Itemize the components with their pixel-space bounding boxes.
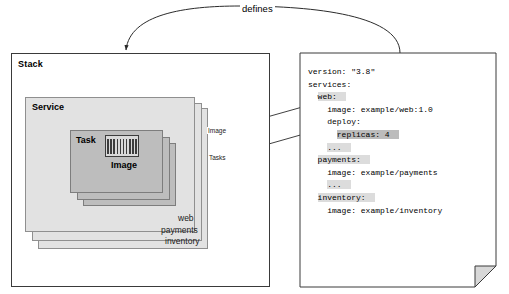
compose-line-text: image: example/inventory (327, 206, 442, 215)
compose-line: deploy: (308, 116, 442, 129)
compose-line: services: (308, 79, 442, 92)
compose-line: ... (308, 142, 442, 155)
compose-line-text: replicas: 4 (337, 130, 399, 139)
compose-line-text: payments: (318, 155, 371, 164)
compose-line: ... (308, 179, 442, 192)
connector-label-tasks: Tasks (208, 154, 227, 161)
compose-line-text: version: "3.8" (308, 67, 375, 76)
stack-label: Stack (18, 59, 43, 69)
service-name-payments: payments (161, 225, 198, 235)
compose-line-text: services: (308, 80, 351, 89)
compose-line: payments: (308, 154, 442, 167)
defines-label: defines (240, 3, 275, 14)
task-label: Task (76, 135, 96, 145)
image-label: Image (103, 160, 145, 170)
compose-line: version: "3.8" (308, 66, 442, 79)
compose-line-text: deploy: (327, 117, 361, 126)
diagram-canvas: Stack inventory payments web Service Tas… (0, 0, 509, 294)
compose-line-text: image: example/payments (327, 168, 437, 177)
service-name-inventory: inventory (165, 236, 200, 246)
compose-line-text: web: (318, 92, 347, 101)
compose-line: image: example/web:1.0 (308, 104, 442, 117)
image-icon (105, 135, 139, 157)
compose-line: replicas: 4 (308, 129, 442, 142)
compose-line: image: example/inventory (308, 205, 442, 218)
barcode-bars (107, 139, 136, 154)
compose-line-text: ... (327, 180, 351, 189)
compose-line: inventory: (308, 192, 442, 205)
compose-line-text: inventory: (318, 193, 376, 202)
compose-line: image: example/payments (308, 167, 442, 180)
service-name-web: web (178, 213, 194, 223)
service-label: Service (32, 102, 64, 112)
compose-line: web: (308, 91, 442, 104)
compose-line-text: ... (327, 143, 351, 152)
compose-file-document: version: "3.8"services: web: image: exam… (300, 53, 496, 287)
compose-line-text: image: example/web:1.0 (327, 105, 433, 114)
connector-label-image: Image (207, 127, 227, 134)
compose-file-text: version: "3.8"services: web: image: exam… (308, 66, 442, 217)
